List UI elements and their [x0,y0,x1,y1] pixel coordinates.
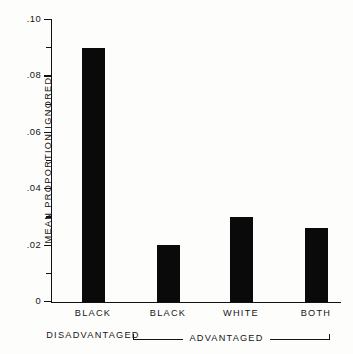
y-tick-label: 0 [1,295,41,306]
y-tick-major [44,132,52,133]
y-tick-minor [46,104,52,105]
bar [305,228,328,301]
y-tick-label: .10 [1,13,41,24]
bar [82,48,105,302]
y-tick-label: .06 [1,126,41,137]
bracket-label: ADVANTAGED [183,333,270,343]
y-tick-label: .02 [1,239,41,250]
y-tick-major [44,301,52,302]
y-tick-major [44,75,52,76]
y-tick-minor [46,160,52,161]
y-tick-label: .04 [1,182,41,193]
y-tick-major [44,188,52,189]
bar [157,245,180,301]
y-tick-minor [46,47,52,48]
y-tick-minor [46,216,52,217]
y-tick-minor [46,273,52,274]
bar-chart: MEAN PROPORTION IGNORED .10.08.06.04.020… [0,0,353,354]
bracket-right-line [270,339,330,340]
y-tick-major [44,245,52,246]
x-axis-line [51,302,341,303]
bracket-right-tip [329,334,330,341]
advantaged-group-bracket: ADVANTAGED [133,333,330,340]
y-tick-major [44,19,52,20]
y-tick-label: .08 [1,69,41,80]
bar [230,217,253,302]
x-axis-category-label: BOTH [271,308,353,318]
bracket-left-line [133,339,183,340]
